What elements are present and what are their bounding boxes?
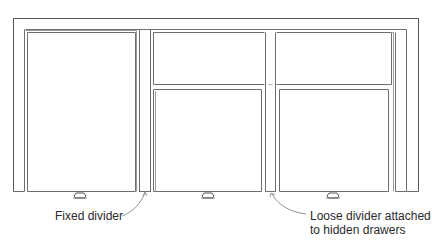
left-knob <box>73 193 87 198</box>
middle-knob <box>201 193 215 198</box>
right-top-drawer <box>277 33 394 192</box>
outer-frame <box>14 19 419 192</box>
middle-top-drawer <box>154 33 265 85</box>
fixed-divider-leader <box>122 193 145 216</box>
loose-divider-label-line2: to hidden drawers <box>310 223 431 237</box>
fixed-divider-label: Fixed divider <box>55 209 123 223</box>
loose-divider-leader <box>272 194 306 214</box>
loose-divider <box>266 33 276 192</box>
middle-lower-door <box>154 90 262 192</box>
right-lower-door <box>280 90 389 192</box>
right-post <box>396 33 407 192</box>
right-knob <box>326 193 340 198</box>
loose-divider-label-line1: Loose divider attached <box>310 209 431 223</box>
left-door <box>26 31 137 192</box>
fixed-divider <box>140 30 151 192</box>
loose-divider-label: Loose divider attached to hidden drawers <box>310 209 431 237</box>
